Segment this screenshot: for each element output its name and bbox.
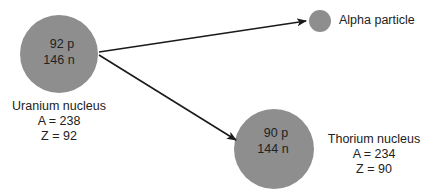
thorium-atomic-number: Z = 90 [318,162,430,177]
alpha-particle-circle [309,10,331,32]
uranium-label: Uranium nucleus A = 238 Z = 92 [4,99,114,144]
thorium-label: Thorium nucleus A = 234 Z = 90 [318,132,430,177]
thorium-composition: 90 p 144 n [248,125,298,157]
uranium-atomic-number: Z = 92 [4,129,114,144]
thorium-mass-number: A = 234 [318,147,430,162]
alpha-particle-label: Alpha particle [339,13,415,28]
thorium-neutrons: 144 n [248,141,298,157]
uranium-neutrons: 146 n [34,52,84,68]
uranium-composition: 92 p 146 n [34,36,84,68]
thorium-name: Thorium nucleus [318,132,430,147]
uranium-protons: 92 p [34,36,84,52]
arrow-to-thorium [99,55,236,140]
uranium-name: Uranium nucleus [4,99,114,114]
uranium-mass-number: A = 238 [4,114,114,129]
arrow-to-alpha [99,21,306,52]
thorium-protons: 90 p [248,125,298,141]
